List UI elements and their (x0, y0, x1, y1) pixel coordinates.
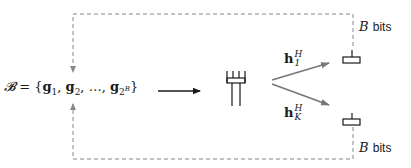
equals-brace: = { (15, 79, 42, 94)
feedback-label-bottom: B bits (359, 140, 391, 155)
user-K-device-icon (343, 113, 360, 125)
subscript: 2B (119, 87, 130, 97)
subscript: 1 (52, 87, 58, 97)
user-1-device-icon (343, 50, 360, 63)
vector-g1: g (42, 79, 51, 94)
channel-label-user-1: hH1 (284, 50, 302, 68)
bits-unit: bits (373, 20, 392, 34)
vector-g2B: g (110, 79, 119, 94)
subscript: 2 (75, 87, 81, 97)
bits-unit: bits (373, 141, 392, 155)
bits-variable: B (359, 19, 369, 34)
feedback-path-bottom (73, 104, 353, 159)
user-index: K (294, 113, 302, 122)
feedback-path-top (73, 14, 353, 72)
channel-vector: h (284, 51, 293, 66)
channel-vector: h (284, 105, 293, 120)
channel-label-user-K: hHK (284, 104, 302, 122)
ellipsis: … (89, 79, 102, 94)
codebook-formula: 𝓑 = {g1, g2, …, g2B} (4, 79, 138, 97)
codebook-symbol: 𝓑 (4, 79, 15, 94)
vector-g2: g (66, 79, 75, 94)
close-brace: } (130, 79, 138, 94)
bits-variable: B (359, 140, 369, 155)
user-index: 1 (294, 59, 302, 68)
antenna-array-icon (227, 71, 245, 106)
channel-arrow-user-K (272, 84, 329, 105)
feedback-label-top: B bits (359, 19, 391, 34)
